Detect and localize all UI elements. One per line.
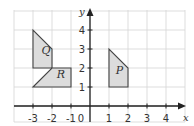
y-tick-label: 2: [79, 63, 85, 74]
shape-r: [33, 68, 71, 87]
x-tick-label: 3: [144, 113, 150, 124]
x-tick-label: -1: [66, 113, 76, 124]
x-tick-label: -2: [47, 113, 57, 124]
y-axis-arrow-icon: [87, 8, 94, 16]
y-tick-label: 3: [79, 44, 85, 55]
shape-label-p: P: [115, 64, 124, 77]
shapes-layer: QRP: [33, 30, 128, 87]
y-axis-label: y: [78, 6, 85, 17]
y-tick-label: 1: [79, 82, 85, 93]
shape-label-r: R: [56, 68, 65, 81]
y-tick-label: 4: [79, 25, 85, 36]
x-tick-label: 2: [125, 113, 131, 124]
shape-label-q: Q: [42, 44, 51, 57]
x-axis-label: x: [183, 112, 189, 123]
x-tick-label: -3: [28, 113, 38, 124]
x-tick-label: 0: [78, 113, 84, 124]
coordinate-grid-diagram: QRP x y -3-2-1012341234: [0, 0, 194, 126]
x-tick-label: 1: [106, 113, 112, 124]
x-tick-label: 4: [163, 113, 169, 124]
